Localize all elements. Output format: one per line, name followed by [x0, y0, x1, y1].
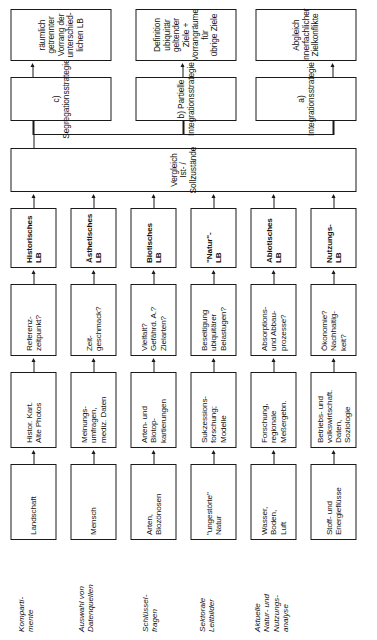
strategy-branch-stem	[33, 134, 34, 148]
node-outcome-integrationsstrategie: Abgleich innerfachlicher Zielkonflikte	[255, 9, 356, 61]
node-strategy-integrationsstrategie: a) Integrationsstrategie	[255, 77, 356, 121]
node-frage-vielfalt-zielarten: Vielfalt? Gefährd. A.? Zielarten?	[130, 284, 176, 356]
arrowhead-kompartiment-wasser	[271, 450, 275, 454]
node-kompartiment-arten-biozoenosen: Arten, Biozönosen	[130, 464, 176, 540]
arrowhead-frage-absorption	[271, 270, 275, 274]
arrowhead-frage-referenz	[31, 270, 35, 274]
node-kompartiment-landschaft: Landschaft	[10, 464, 56, 540]
arrowhead-kompartiment-stoff	[331, 450, 335, 454]
arrowhead-leitbild-nutzungs	[331, 194, 335, 198]
row-label-auswahl-datenquellen: Auswahl von Datenquellen	[76, 550, 95, 632]
node-leitbild-biotisches: Biotisches LB	[130, 208, 176, 268]
node-kompartiment-ungestoerte-natur: "ungestörte" Natur	[190, 464, 236, 540]
node-frage-beseitigung-belastungen: Beseitigung ubiquitärer Belastugen?	[190, 284, 236, 356]
node-datenquelle-betriebs-volkswirtschaft: Betriebs- und volkswirtschaft. Daten, So…	[310, 372, 356, 448]
flowchart: Komparti- mente Auswahl von Datenquellen…	[0, 0, 377, 640]
node-datenquelle-meinungsumfragen: Meinungs- umfragen, mediz. Daten	[70, 372, 116, 448]
arrowhead-frage-zeitgeschmack	[91, 270, 95, 274]
node-leitbild-historisches: Historisches LB	[10, 208, 56, 268]
arrowhead-outcome-integrationsstrategie	[330, 63, 334, 67]
arrowhead-kompartiment-arten	[151, 450, 155, 454]
node-frage-referenzzeitpunkt: Referenz- zeitpunkt?	[10, 284, 56, 356]
arrowhead-leitbild-abiotisches	[271, 194, 275, 198]
node-frage-absorptions-abbauprozesse: Absorptions- und Abbau- prozesse?	[250, 284, 296, 356]
row-label-kompartimente: Komparti- mente	[16, 550, 35, 632]
diagram-canvas: Komparti- mente Auswahl von Datenquellen…	[0, 0, 377, 640]
arrowhead-frage-vielfalt	[151, 270, 155, 274]
node-datenquelle-arten-biotopkartierungen: Arten- und Biotop- kartierungen	[130, 372, 176, 448]
arrowhead-datenquelle-sukzession	[211, 358, 215, 362]
node-outcome-segregationsstrategie: räumlich getrennter Vorrang der untersch…	[10, 9, 111, 61]
node-datenquelle-sukzessionsforschung: Sukzessions- forschung; Modelle	[190, 372, 236, 448]
strategy-tee-segregationsstrategie	[32, 121, 34, 135]
arrowhead-leitbild-aesthetisches	[91, 194, 95, 198]
arrowhead-leitbild-historisches	[31, 194, 35, 198]
arrowhead-datenquelle-forschung	[271, 358, 275, 362]
node-kompartiment-wasser-boden-luft: Wasser, Boden, Luft	[250, 464, 296, 540]
node-frage-zeitgeschmack: Zeit- geschmack?	[70, 284, 116, 356]
arrowhead-datenquelle-histor	[31, 358, 35, 362]
arrowhead-kompartiment-mensch	[91, 450, 95, 454]
row-label-schluesselfragen: Schlüssel- fragen	[140, 550, 159, 632]
node-kompartiment-stoff-energiefluesse: Stoff- und Energieflüsse	[310, 464, 356, 540]
arrowhead-leitbild-biotisches	[151, 194, 155, 198]
node-datenquelle-histor-karten: Histor. Kart. Alte Photos	[10, 372, 56, 448]
node-datenquelle-forschung-messergebn: Forschung, regionale Meßergebn.	[250, 372, 296, 448]
node-outcome-partielle-integrationsstrategie: Definition ubiquitär geltender Ziele + V…	[135, 9, 236, 61]
node-strategy-partielle-integrationsstrategie: b) Partielle Integrationsstrategie	[135, 77, 236, 121]
node-vergleich-ist-soll: Vergleich Ist- / Sollzustände	[10, 148, 356, 192]
strategy-tee-integrationsstrategie	[332, 121, 334, 135]
arrowhead-leitbild-natur	[211, 194, 215, 198]
node-strategy-segregationsstrategie: c) Segregationsstrategie	[10, 77, 111, 121]
arrowhead-kompartiment-natur	[211, 450, 215, 454]
node-frage-oekonomie-nachhaltigkeit: Ökonomie? Nachhaltig- keit?	[310, 284, 356, 356]
row-label-aktuelle-analyse: Aktuelle Natur- und Nutzungs- analyse	[252, 550, 290, 632]
row-label-sektorale-leitbilder: Sektorale Leitbilder	[197, 550, 216, 632]
arrowhead-datenquelle-meinung	[91, 358, 95, 362]
arrowhead-datenquelle-betriebs	[331, 358, 335, 362]
arrowhead-datenquelle-biotop	[151, 358, 155, 362]
arrowhead-outcome-partielle	[180, 63, 184, 67]
node-leitbild-aesthetisches: Ästhetisches LB	[70, 208, 116, 268]
node-kompartiment-mensch: Mensch	[70, 464, 116, 540]
arrowhead-frage-oekonomie	[331, 270, 335, 274]
node-leitbild-nutzungs: Nutzungs- LB	[310, 208, 356, 268]
node-leitbild-natur: "Natur"- LB	[190, 208, 236, 268]
arrowhead-kompartiment-landschaft	[31, 450, 35, 454]
arrowhead-outcome-segregation	[30, 63, 34, 67]
node-leitbild-abiotisches: Abiotisches LB	[250, 208, 296, 268]
arrowhead-frage-beseitigung	[211, 270, 215, 274]
